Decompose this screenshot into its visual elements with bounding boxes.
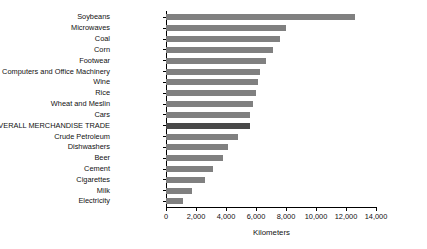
x-axis-tick xyxy=(196,208,197,211)
category-label: Wheat and Meslin xyxy=(0,100,110,107)
category-label: Coal xyxy=(0,35,110,42)
bar xyxy=(166,134,238,140)
bar-row: Electricity xyxy=(166,196,376,207)
x-axis-tick xyxy=(226,208,227,211)
bar xyxy=(166,25,286,31)
category-label: Soybeans xyxy=(0,13,110,20)
x-axis-tick xyxy=(166,208,167,211)
bar-row: Beer xyxy=(166,153,376,164)
x-axis-tick xyxy=(346,208,347,211)
bar-row: Microwaves xyxy=(166,23,376,34)
bar xyxy=(166,166,213,172)
bar xyxy=(166,79,258,85)
category-label: Electricity xyxy=(0,197,110,204)
category-label: Corn xyxy=(0,46,110,53)
x-axis-tick-label: 14,000 xyxy=(356,213,396,221)
x-axis-tick xyxy=(286,208,287,211)
bar-row: Cigarettes xyxy=(166,174,376,185)
x-axis-tick xyxy=(376,208,377,211)
bar xyxy=(166,144,228,150)
bar xyxy=(166,123,250,129)
bar-chart: SoybeansMicrowavesCoalCornFootwearComput… xyxy=(0,0,427,249)
category-label: Cars xyxy=(0,111,110,118)
category-label: Microwaves xyxy=(0,24,110,31)
bar xyxy=(166,198,183,204)
category-label: Wine xyxy=(0,78,110,85)
bar-row: Corn xyxy=(166,44,376,55)
bar-row: Soybeans xyxy=(166,12,376,23)
category-label: Crude Petroleum xyxy=(0,133,110,140)
category-label: Rice xyxy=(0,89,110,96)
bar xyxy=(166,69,260,75)
bar-row: Wheat and Meslin xyxy=(166,99,376,110)
bar xyxy=(166,112,250,118)
category-label: Beer xyxy=(0,154,110,161)
category-label: Cigarettes xyxy=(0,176,110,183)
bar-row: Crude Petroleum xyxy=(166,131,376,142)
bar xyxy=(166,47,273,53)
category-label: OVERALL MERCHANDISE TRADE xyxy=(0,122,110,129)
bar xyxy=(166,177,205,183)
bar xyxy=(166,155,223,161)
category-label: Computers and Office Machinery xyxy=(0,68,110,75)
bar-row: Rice xyxy=(166,88,376,99)
category-label: Dishwashers xyxy=(0,143,110,150)
bar xyxy=(166,90,256,96)
bar-row: Dishwashers xyxy=(166,142,376,153)
bar-row: Footwear xyxy=(166,55,376,66)
category-label: Footwear xyxy=(0,57,110,64)
x-axis-tick xyxy=(256,208,257,211)
bar-row: Coal xyxy=(166,34,376,45)
bar-row: Computers and Office Machinery xyxy=(166,66,376,77)
category-label: Cement xyxy=(0,165,110,172)
bar xyxy=(166,101,253,107)
bar xyxy=(166,188,192,194)
bar-row: Cars xyxy=(166,109,376,120)
bar xyxy=(166,36,280,42)
bar xyxy=(166,14,355,20)
x-axis-tick xyxy=(316,208,317,211)
bar xyxy=(166,58,266,64)
bar-row: OVERALL MERCHANDISE TRADE xyxy=(166,120,376,131)
bar-row: Cement xyxy=(166,164,376,175)
x-axis-title: Kilometers xyxy=(166,228,377,237)
plot-area: SoybeansMicrowavesCoalCornFootwearComput… xyxy=(166,12,376,207)
category-label: Milk xyxy=(0,187,110,194)
bar-row: Wine xyxy=(166,77,376,88)
bar-row: Milk xyxy=(166,185,376,196)
